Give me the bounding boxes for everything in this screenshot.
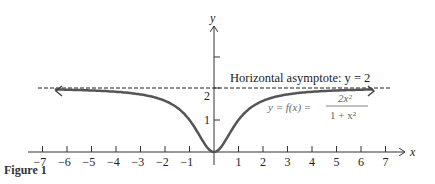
x-tick-label: 6 [358,155,364,169]
equation-denominator: 1 + x² [330,109,357,121]
y-axis-label: y [209,11,216,25]
x-tick-label: 5 [334,155,340,169]
x-tick-label: −2 [156,155,169,169]
equation-numerator: 2x² [338,92,352,104]
x-tick-label: −1 [181,155,194,169]
x-tick-label: 4 [309,155,315,169]
asymptote-label: Horizontal asymptote: y = 2 [230,71,370,85]
x-tick-label: −5 [83,155,96,169]
x-tick-label: −4 [107,155,120,169]
y-tick-label-2: 2 [204,89,210,103]
x-axis-label: x [409,145,416,159]
equation-lhs: y = f(x) = [267,101,311,114]
y-tick-label-1: 1 [204,113,210,127]
x-tick-labels: −7−6−5−4−3−2−11234567 [34,155,389,169]
x-tick-label: 1 [236,155,242,169]
x-tick-label: −3 [132,155,145,169]
x-tick-label: 2 [260,155,266,169]
x-tick-label: 3 [285,155,291,169]
figure-caption: Figure 1 [4,163,47,178]
x-tick-label: −6 [58,155,71,169]
x-tick-label: 7 [383,155,389,169]
function-graph: −7−6−5−4−3−2−11234567 1 2 x y Horizontal… [0,0,435,184]
